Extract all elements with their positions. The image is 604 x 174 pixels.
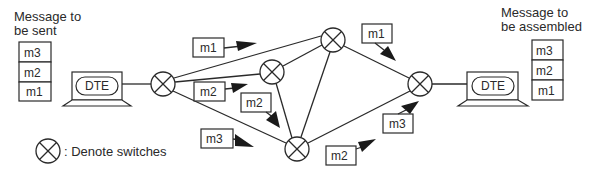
destination-stack-item: m2: [536, 64, 553, 78]
source-caption: Message to be sent: [14, 9, 81, 38]
source-caption-line1: Message to: [14, 9, 81, 24]
packet-m2-bottom: m2: [326, 139, 376, 165]
svg-text:m1: m1: [200, 41, 217, 55]
switch-icon: [321, 28, 345, 52]
packet-m2-lower: m2: [241, 93, 280, 128]
legend-text: : Denote switches: [64, 144, 167, 159]
svg-text:m3: m3: [206, 132, 223, 146]
packet-switching-diagram: Message to be sent m3 m2 m1 DTE: [0, 0, 604, 174]
destination-caption-line2: be assembled: [501, 19, 582, 34]
packet-m1-upper: m1: [193, 38, 257, 57]
switch-icon: [151, 72, 175, 96]
source-dte-label: DTE: [85, 79, 109, 93]
packet-m2-middle: m2: [194, 82, 248, 101]
switch-icon: [260, 60, 284, 84]
switch-icon: [408, 72, 432, 96]
source-stack-item: m3: [24, 46, 41, 60]
svg-text:m3: m3: [389, 117, 406, 131]
destination-stack-item: m3: [536, 44, 553, 58]
svg-text:m2: m2: [331, 149, 348, 163]
destination-stack-item: m1: [538, 84, 555, 98]
packet-m1-right: m1: [362, 24, 396, 61]
packet-m3-right: m3: [383, 101, 419, 133]
source-stack-item: m2: [24, 66, 41, 80]
packet-m3-lower: m3: [201, 129, 254, 148]
source-message-stack: m3 m2 m1: [19, 42, 51, 101]
switch-icon: [285, 137, 309, 161]
legend: : Denote switches: [36, 139, 167, 163]
source-stack-item: m1: [26, 85, 43, 99]
source-dte-terminal: DTE: [63, 72, 131, 106]
destination-caption-line1: Message to: [501, 5, 568, 20]
destination-dte-label: DTE: [481, 79, 505, 93]
svg-text:m1: m1: [368, 27, 385, 41]
svg-text:m2: m2: [246, 96, 263, 110]
destination-message-stack: m3 m2 m1: [532, 40, 563, 100]
source-caption-line2: be sent: [14, 23, 57, 38]
svg-text:m2: m2: [200, 85, 217, 99]
switch-legend-icon: [36, 139, 60, 163]
destination-caption: Message to be assembled: [501, 5, 582, 34]
destination-dte-terminal: DTE: [458, 72, 528, 106]
